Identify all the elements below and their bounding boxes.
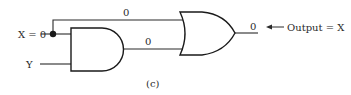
top-wire-value: 0 [123,7,129,18]
and-output-value: 0 [145,36,151,47]
y-input-label: Y [25,59,33,70]
logic-circuit-diagram: X = 0 Y 0 0 0 Output = X (c) [0,0,351,95]
or-output-value: 0 [250,21,256,32]
junction-dot [50,31,56,37]
arrow-left-icon [266,25,284,30]
x-input-label: X = 0 [18,29,46,40]
or-gate [180,12,235,55]
output-annotation-label: Output = X [287,22,345,33]
figure-caption: (c) [146,78,160,89]
and-gate [71,28,123,71]
